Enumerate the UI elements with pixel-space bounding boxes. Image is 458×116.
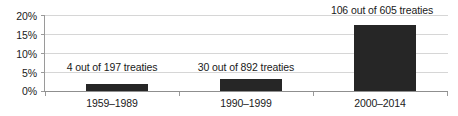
x-axis-label-1990-1999: 1990–1999 xyxy=(179,97,313,109)
y-tick-label-20: 20% xyxy=(16,11,37,22)
bar-2000-2014[interactable] xyxy=(354,25,416,92)
x-axis-tick-2 xyxy=(313,92,314,96)
y-tick-label-0: 0% xyxy=(22,86,37,97)
y-axis: 20% 15% 10% 5% 0% xyxy=(0,0,40,116)
x-axis-tick-start xyxy=(45,92,46,96)
bar-annotation-1990-1999: 30 out of 892 treaties xyxy=(180,61,312,73)
x-axis-tick-1 xyxy=(179,92,180,96)
y-tick-label-5: 5% xyxy=(22,68,37,79)
x-axis-label-2000-2014: 2000–2014 xyxy=(313,97,447,109)
y-tick-label-10: 10% xyxy=(16,49,37,60)
y-tick-label-15: 15% xyxy=(16,30,37,41)
x-axis-line xyxy=(44,91,448,92)
plot-area xyxy=(45,15,448,92)
x-axis-tick-end xyxy=(447,92,448,96)
bar-chart: 20% 15% 10% 5% 0% 1959–1989 1990–1999 20… xyxy=(0,0,458,116)
x-axis-label-1959-1989: 1959–1989 xyxy=(45,97,179,109)
bar-annotation-1959-1989: 4 out of 197 treaties xyxy=(46,61,178,73)
bar-annotation-2000-2014: 106 out of 605 treaties xyxy=(310,4,454,16)
